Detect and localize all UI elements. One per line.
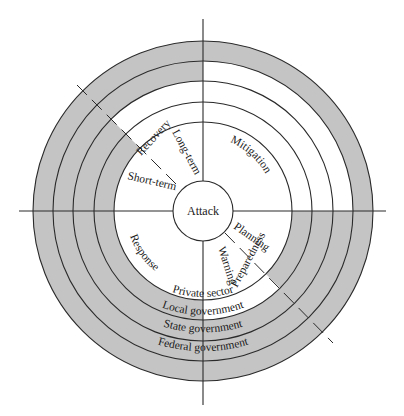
attack-label: Attack [187, 204, 219, 218]
mitigation-label: Mitigation [229, 133, 274, 175]
short-term-label: Short-term [127, 169, 178, 192]
long-term-label: Long-term [169, 127, 204, 177]
emergency-management-ring-diagram: Attack Mitigation Response Recovery Long… [0, 0, 404, 416]
